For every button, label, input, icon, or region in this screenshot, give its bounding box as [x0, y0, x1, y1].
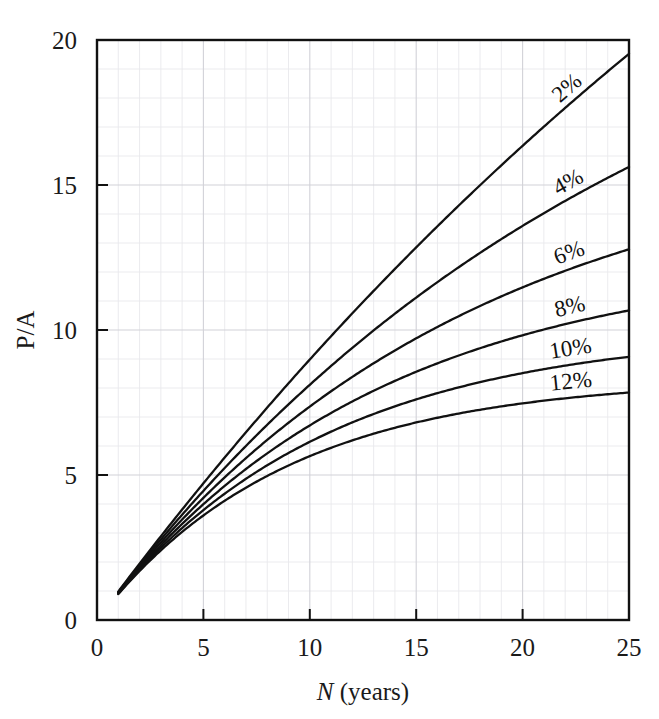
x-tick-label: 5 — [197, 634, 210, 661]
x-tick-label: 10 — [297, 634, 322, 661]
y-tick-label: 5 — [65, 462, 78, 489]
y-tick-label: 15 — [52, 172, 77, 199]
y-tick-label: 20 — [52, 27, 77, 54]
pa-factor-chart: 0510152025 05101520 2%4%6%8%10%12% N (ye… — [0, 0, 659, 719]
x-tick-label: 25 — [617, 634, 642, 661]
y-tick-label: 10 — [52, 317, 77, 344]
y-axis-title: P/A — [12, 311, 39, 350]
series-label-12pct: 12% — [549, 367, 594, 396]
y-tick-label: 0 — [65, 607, 78, 634]
x-tick-label: 0 — [91, 634, 104, 661]
chart-figure: 0510152025 05101520 2%4%6%8%10%12% N (ye… — [0, 0, 659, 719]
x-axis-title: N (years) — [316, 678, 409, 706]
x-tick-label: 20 — [510, 634, 535, 661]
x-tick-label: 15 — [404, 634, 429, 661]
